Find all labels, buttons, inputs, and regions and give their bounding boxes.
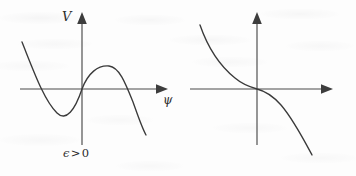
plot-epsilon-negative (178, 0, 356, 176)
caption-symbol-left: ϵ (63, 146, 70, 160)
psi-axis-label-left: ψ (163, 94, 172, 106)
panel-epsilon-positive: V ψ ϵ>0 (0, 0, 178, 176)
horizontal-axis-arrowhead-right (321, 84, 333, 94)
caption-value-left: 0 (82, 146, 90, 160)
curve-epsilon-negative (200, 25, 312, 155)
caption-operator-left: > (70, 146, 82, 160)
v-axis-label-left: V (62, 10, 71, 23)
potential-energy-figure: V ψ ϵ>0 V ψ ϵ<0 (0, 0, 356, 176)
panel-epsilon-negative: V ψ ϵ<0 (178, 0, 356, 176)
caption-epsilon-positive: ϵ>0 (63, 148, 89, 160)
vertical-axis-arrowhead-left (77, 12, 87, 24)
vertical-axis-arrowhead-right (252, 12, 262, 24)
